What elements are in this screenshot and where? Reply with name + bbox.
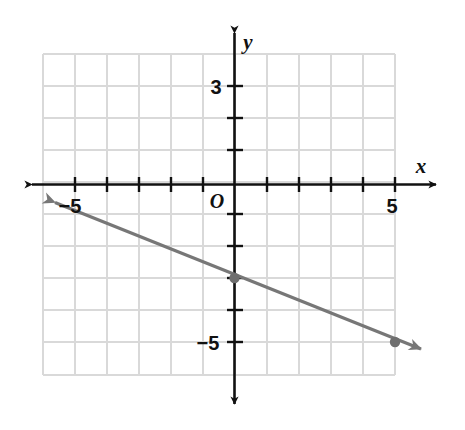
plotted-point-second — [390, 337, 400, 347]
coordinate-plane-svg: x y O −5 5 3 −5 — [0, 0, 465, 430]
x-tick-label-negative-5: −5 — [59, 195, 82, 217]
grid-lines — [43, 54, 395, 375]
plotted-point-y-intercept — [229, 273, 239, 283]
y-axis — [227, 33, 243, 404]
y-tick-label-negative-5: −5 — [197, 332, 220, 354]
origin-label: O — [210, 190, 224, 212]
plotted-line-group — [55, 203, 421, 350]
y-axis-label: y — [240, 30, 253, 54]
x-axis-label: x — [415, 154, 427, 178]
y-tick-label-positive-3: 3 — [210, 76, 221, 98]
coordinate-plane-figure: x y O −5 5 3 −5 — [0, 0, 465, 430]
x-tick-label-positive-5: 5 — [386, 195, 397, 217]
